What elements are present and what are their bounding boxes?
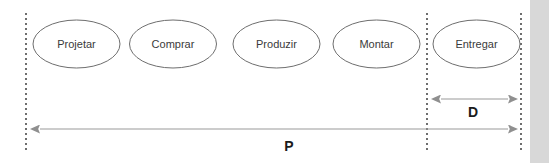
right-margin-band bbox=[530, 0, 549, 163]
process-step-label: Entregar bbox=[455, 38, 498, 50]
measure-production-label: P bbox=[284, 138, 293, 154]
process-step-produzir[interactable]: Produzir bbox=[233, 20, 320, 68]
process-step-montar[interactable]: Montar bbox=[333, 20, 420, 68]
measure-production: P bbox=[40, 129, 508, 154]
process-step-label: Produzir bbox=[256, 38, 297, 50]
process-step-label: Comprar bbox=[152, 38, 195, 50]
process-steps: Projetar Comprar Produzir Montar Entrega… bbox=[33, 20, 520, 68]
process-step-projetar[interactable]: Projetar bbox=[33, 20, 120, 68]
measure-delivery: D bbox=[441, 99, 508, 120]
measure-delivery-label: D bbox=[468, 104, 478, 120]
process-step-label: Montar bbox=[359, 38, 394, 50]
diagram-canvas: Projetar Comprar Produzir Montar Entrega… bbox=[0, 0, 549, 163]
process-step-comprar[interactable]: Comprar bbox=[130, 20, 217, 68]
process-step-entregar[interactable]: Entregar bbox=[433, 20, 520, 68]
process-step-label: Projetar bbox=[57, 38, 96, 50]
process-flow-diagram: Projetar Comprar Produzir Montar Entrega… bbox=[0, 0, 549, 163]
